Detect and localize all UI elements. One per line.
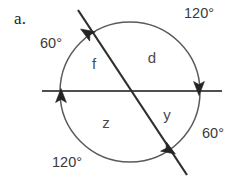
region-label-f: f	[92, 56, 96, 71]
item-label: a.	[14, 10, 26, 27]
arc-measure-top-right: 120°	[184, 6, 214, 21]
arc-measure-top-left: 60°	[40, 36, 62, 51]
region-label-d: d	[148, 50, 156, 65]
region-label-z: z	[102, 115, 110, 130]
arc-measure-bottom-right: 60°	[202, 126, 224, 141]
figure-canvas	[0, 0, 235, 180]
arrow-upper-left-icon	[78, 24, 96, 41]
arc-measure-bottom-left: 120°	[52, 155, 82, 170]
geometry-figure: a. 120° 60° 60° 120° f d z y	[0, 0, 235, 180]
region-label-y: y	[163, 107, 171, 122]
